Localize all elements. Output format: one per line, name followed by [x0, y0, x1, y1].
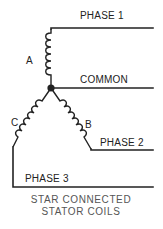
coil-a	[46, 29, 51, 88]
phase1-label: PHASE 1	[80, 10, 124, 21]
phase3-label: PHASE 3	[25, 173, 69, 184]
phase1-wire	[51, 28, 153, 29]
phase2-label: PHASE 2	[100, 137, 144, 148]
phase2-wire	[91, 149, 153, 150]
common-label: COMMON	[80, 74, 128, 85]
caption-line1: STAR CONNECTED	[31, 194, 131, 205]
coil-b-label: B	[85, 119, 92, 130]
star-connection-diagram: PHASE 1 COMMON PHASE 2 PHASE 3 A B C STA…	[0, 0, 163, 229]
caption-line2: STATOR COILS	[42, 206, 121, 217]
coil-c	[13, 88, 51, 147]
coil-a-label: A	[26, 55, 33, 66]
coil-c-label: C	[11, 117, 18, 128]
